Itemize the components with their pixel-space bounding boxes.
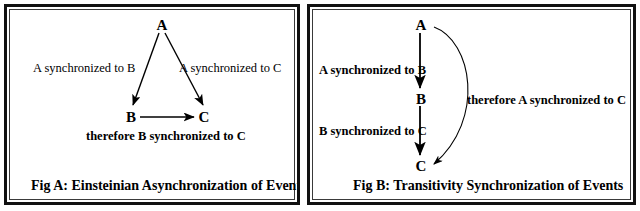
fig-b-node-c: C <box>415 159 426 174</box>
panel-fig-a: A B C A synchronized to B A synchronized… <box>4 4 300 205</box>
fig-b-label-a-to-c: therefore A synchronized to C <box>467 93 626 107</box>
fig-b-edge-a-to-c-curve <box>434 27 468 164</box>
fig-b-node-b: B <box>416 92 426 107</box>
fig-b-caption: Fig B: Transitivity Synchronization of E… <box>353 178 623 194</box>
fig-a-node-a: A <box>156 18 167 33</box>
fig-a-edge-a-to-b <box>133 33 159 105</box>
panel-fig-b-content: A B C A synchronized to B B synchronized… <box>310 7 633 202</box>
fig-a-node-c: C <box>198 110 209 125</box>
fig-a-label-a-to-c: A synchronized to C <box>179 61 281 75</box>
fig-b-label-b-to-c: B synchronized to C <box>319 124 427 138</box>
figure-sheet: A B C A synchronized to B A synchronized… <box>0 0 640 211</box>
fig-b-node-a: A <box>415 18 426 33</box>
fig-a-arrow-layer <box>7 7 297 202</box>
panel-fig-b: A B C A synchronized to B B synchronized… <box>307 4 636 205</box>
fig-a-caption: Fig A: Einsteinian Asynchronization of E… <box>31 178 297 194</box>
fig-a-node-b: B <box>126 110 136 125</box>
fig-b-label-a-to-b: A synchronized to B <box>319 63 426 77</box>
panel-fig-a-content: A B C A synchronized to B A synchronized… <box>7 7 297 202</box>
fig-a-label-a-to-b: A synchronized to B <box>33 61 135 75</box>
fig-a-label-b-to-c: therefore B synchronized to C <box>86 129 246 143</box>
